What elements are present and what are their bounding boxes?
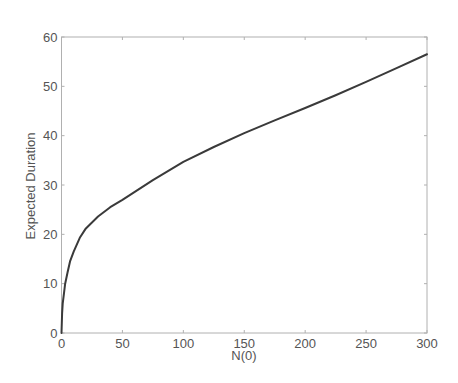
x-tick-label: 100 (172, 336, 194, 351)
y-tick-label: 40 (43, 128, 57, 143)
plot-frame (62, 37, 428, 333)
y-axis: 0102030405060 (43, 30, 427, 341)
x-axis-label: N(0) (231, 348, 256, 363)
y-tick-label: 0 (50, 326, 57, 341)
x-tick-label: 0 (58, 336, 65, 351)
line-chart: 0102030405060 050100150200250300 N(0) Ex… (0, 0, 458, 383)
y-tick-label: 60 (43, 30, 57, 45)
y-tick-label: 20 (43, 227, 57, 242)
series-line (62, 54, 428, 333)
x-tick-label: 200 (294, 336, 316, 351)
y-axis-label: Expected Duration (23, 133, 38, 240)
x-axis: 050100150200250300 (58, 37, 438, 351)
x-tick-label: 300 (416, 336, 438, 351)
data-series (62, 54, 428, 333)
axes-box (62, 37, 428, 333)
y-tick-label: 30 (43, 178, 57, 193)
y-tick-label: 10 (43, 276, 57, 291)
y-tick-label: 50 (43, 79, 57, 94)
x-tick-label: 250 (355, 336, 377, 351)
x-tick-label: 50 (115, 336, 129, 351)
